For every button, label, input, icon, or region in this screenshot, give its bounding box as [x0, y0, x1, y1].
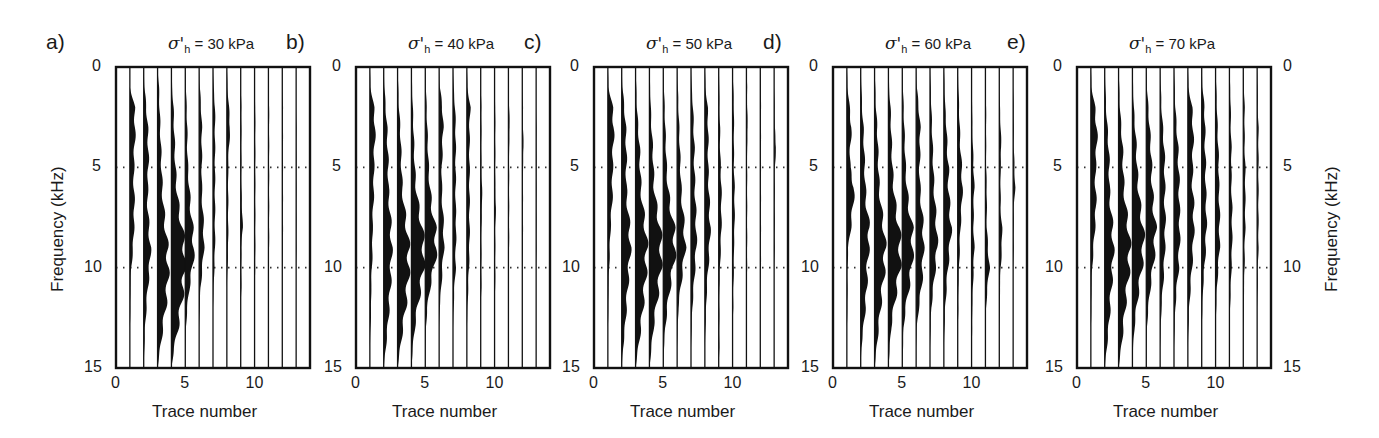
x-tick-label: 5	[180, 374, 189, 392]
x-axis-label: Trace number	[630, 402, 735, 422]
sigma-symbol: σ'	[408, 33, 424, 53]
trace-fill	[691, 67, 697, 368]
y-tick-label: 15	[84, 358, 102, 376]
trace-fill	[663, 67, 676, 368]
panel-title: σ'h = 30 kPa	[168, 33, 254, 55]
panel-title: σ'h = 70 kPa	[1129, 33, 1215, 55]
y-axis-label-right: Frequency (kHz)	[1322, 166, 1342, 292]
y-axis-label-left: Frequency (kHz)	[48, 166, 68, 292]
y-tick-label: 5	[809, 157, 818, 175]
wiggle-plot-panel	[1077, 67, 1271, 368]
trace-fill	[636, 67, 649, 368]
trace-fill	[1119, 67, 1132, 368]
x-tick-label: 10	[246, 374, 264, 392]
trace-fill	[425, 67, 437, 368]
trace-fill	[1188, 67, 1195, 368]
title-value: = 70 kPa	[1151, 35, 1215, 52]
x-tick-label: 5	[420, 374, 429, 392]
x-tick-label: 10	[1207, 374, 1225, 392]
y-tick-label: 15	[801, 358, 819, 376]
x-tick-label: 10	[486, 374, 504, 392]
title-value: = 60 kPa	[907, 35, 971, 52]
panel-letter: b)	[286, 30, 305, 54]
trace-fill	[861, 67, 870, 368]
trace-fill	[411, 67, 425, 368]
y-tick-label: 5	[92, 157, 101, 175]
trace-fill	[847, 67, 855, 368]
trace-fill	[130, 67, 136, 368]
y-tick-label-right: 10	[1283, 258, 1301, 276]
trace-fill	[985, 67, 990, 368]
trace-fill	[144, 67, 152, 368]
trace-fill	[439, 67, 444, 368]
panel-title: σ'h = 60 kPa	[885, 33, 971, 55]
sigma-symbol: σ'	[168, 33, 184, 53]
y-tick-label-right: 15	[1283, 358, 1301, 376]
trace-fill	[649, 67, 662, 368]
trace-fill	[916, 67, 925, 368]
y-tick-label-right: 5	[1283, 157, 1292, 175]
trace-fill	[370, 67, 376, 368]
wiggle-plot-panel	[833, 67, 1027, 368]
title-value: = 30 kPa	[190, 35, 254, 52]
trace-fill	[958, 67, 963, 368]
x-tick-label: 0	[351, 374, 360, 392]
wiggle-plot-panel	[594, 67, 788, 368]
y-tick-label: 10	[801, 258, 819, 276]
y-tick-label: 10	[84, 258, 102, 276]
sigma-symbol: σ'	[646, 33, 662, 53]
title-value: = 50 kPa	[668, 35, 732, 52]
trace-fill	[185, 67, 194, 368]
trace-fill	[1216, 67, 1221, 368]
trace-fill	[1105, 67, 1115, 368]
panel-letter: e)	[1007, 30, 1026, 54]
y-tick-label: 15	[1045, 358, 1063, 376]
wiggle-plot-panel	[116, 67, 310, 368]
trace-fill	[1132, 67, 1145, 368]
y-tick-label: 10	[562, 258, 580, 276]
y-tick-label: 10	[324, 258, 342, 276]
y-tick-label: 0	[1053, 57, 1062, 75]
x-axis-label: Trace number	[1113, 402, 1218, 422]
trace-fill	[199, 67, 204, 368]
y-tick-label: 15	[562, 358, 580, 376]
y-tick-label: 0	[332, 57, 341, 75]
x-tick-label: 5	[1141, 374, 1150, 392]
trace-fill	[384, 67, 393, 368]
trace-fill	[158, 67, 170, 368]
title-value: = 40 kPa	[430, 35, 494, 52]
x-tick-label: 0	[828, 374, 837, 392]
y-tick-label: 5	[1053, 157, 1062, 175]
trace-fill	[1091, 67, 1098, 368]
panel-letter: d)	[763, 30, 782, 54]
trace-fill	[677, 67, 686, 368]
x-tick-label: 5	[658, 374, 667, 392]
trace-fill	[1146, 67, 1157, 368]
wiggle-plot-panel	[356, 67, 550, 368]
trace-fill	[1202, 67, 1207, 368]
trace-fill	[608, 67, 615, 368]
trace-fill	[944, 67, 952, 368]
sigma-symbol: σ'	[885, 33, 901, 53]
y-tick-label: 0	[570, 57, 579, 75]
x-tick-label: 10	[724, 374, 742, 392]
y-tick-label: 5	[570, 157, 579, 175]
panel-title: σ'h = 50 kPa	[646, 33, 732, 55]
trace-fill	[1174, 67, 1181, 368]
trace-fill	[705, 67, 711, 368]
trace-fill	[902, 67, 914, 368]
y-tick-label: 0	[809, 57, 818, 75]
trace-fill	[930, 67, 938, 368]
x-tick-label: 5	[897, 374, 906, 392]
trace-fill	[171, 67, 187, 368]
y-tick-label: 15	[324, 358, 342, 376]
y-tick-label: 0	[92, 57, 101, 75]
x-axis-label: Trace number	[152, 402, 257, 422]
panel-title: σ'h = 40 kPa	[408, 33, 494, 55]
trace-fill	[875, 67, 887, 368]
x-tick-label: 0	[1072, 374, 1081, 392]
trace-fill	[888, 67, 901, 368]
x-axis-label: Trace number	[392, 402, 497, 422]
sigma-symbol: σ'	[1129, 33, 1145, 53]
trace-fill	[1160, 67, 1166, 368]
